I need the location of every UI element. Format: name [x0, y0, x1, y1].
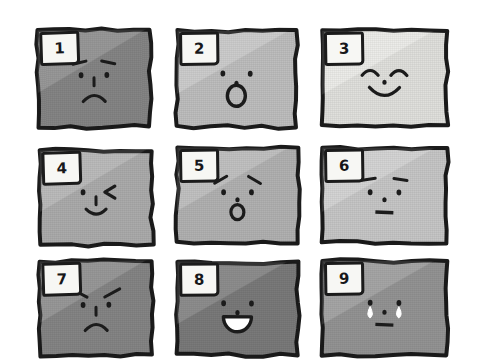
panel-number-tab: 7: [41, 262, 82, 297]
panel-number-label: 4: [56, 161, 67, 176]
panel-number-label: 8: [194, 272, 205, 287]
panel-number-label: 9: [339, 271, 350, 286]
panel-3: 3: [322, 31, 447, 126]
panel-number-label: 6: [339, 158, 350, 173]
panel-number-tab: 8: [179, 262, 219, 296]
panel-number-tab: 4: [41, 151, 82, 186]
panel-8: 8: [177, 261, 299, 355]
panel-number-tab: 3: [324, 31, 365, 66]
panel-6: 6: [322, 148, 448, 244]
panel-2: 2: [177, 30, 297, 127]
panel-1: 1: [37, 29, 150, 127]
panel-number-tab: 1: [39, 31, 80, 66]
panel-number-label: 7: [56, 272, 67, 287]
panel-number-tab: 5: [179, 148, 219, 183]
panel-number-label: 3: [339, 41, 350, 56]
panel-number-label: 5: [194, 158, 205, 173]
panel-4: 4: [40, 150, 153, 246]
panel-7: 7: [40, 261, 153, 356]
panel-number-tab: 6: [324, 148, 364, 183]
panel-number-label: 1: [54, 41, 65, 56]
panel-number-label: 2: [194, 41, 205, 56]
panel-5: 5: [177, 148, 299, 244]
panel-number-tab: 9: [324, 261, 364, 296]
panel-9: 9: [322, 261, 448, 356]
panel-number-tab: 2: [179, 31, 219, 65]
